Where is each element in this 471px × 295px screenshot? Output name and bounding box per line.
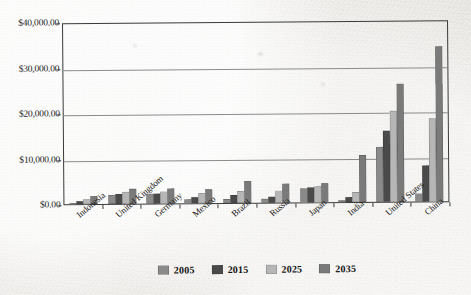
bar-group [337,22,366,202]
y-axis-label: $10,000.00 [4,154,60,164]
bar[interactable] [435,47,443,202]
x-axis-tick [295,204,296,208]
bar[interactable] [338,200,345,202]
bar-group [183,23,212,203]
bar-group [414,21,443,201]
bar-group [68,24,97,204]
legend-label: 2035 [335,263,356,274]
plot-area [62,20,449,205]
legend-item[interactable]: 2025 [265,263,302,274]
bar[interactable] [397,83,405,201]
x-axis-tick [141,205,142,209]
legend-label: 2025 [281,263,302,274]
x-axis-tick [102,205,103,209]
bar[interactable] [185,199,192,203]
x-axis: IndonesiaUnited KingdomGermanyMexicoBraz… [63,202,449,265]
legend-swatch [265,265,276,274]
x-axis-tick [218,204,219,208]
legend-item[interactable]: 2035 [319,263,356,274]
bar-group [107,24,136,204]
bar[interactable] [70,203,77,204]
legend-label: 2015 [228,264,249,275]
y-axis-tick [57,160,61,161]
legend-item[interactable]: 2005 [158,264,195,275]
bar-group [222,23,251,203]
bar[interactable] [359,155,366,202]
bar[interactable] [262,199,269,203]
y-axis-label: $0.00 [4,199,60,209]
bar[interactable] [269,196,276,202]
x-axis-tick [179,204,180,208]
chart-sheet: $40,000.00$30,000.00$20,000.00$10,000.00… [0,0,471,295]
x-axis-tick [411,203,412,207]
bar-groups [63,21,448,204]
y-axis-label: $30,000.00 [3,63,59,73]
legend-item[interactable]: 2015 [212,264,249,275]
x-axis-tick [372,203,373,207]
bar-group [375,22,404,202]
y-axis-tick [57,114,61,115]
bar[interactable] [345,197,352,203]
chart-legend: 2005201520252035 [64,262,450,276]
legend-swatch [158,266,169,275]
bar[interactable] [230,195,237,203]
y-axis-tick [56,23,60,24]
legend-swatch [212,265,223,274]
y-axis-tick [57,205,61,206]
y-axis-label: $40,000.00 [3,17,59,27]
bar[interactable] [115,194,122,204]
bar[interactable] [192,197,199,203]
legend-label: 2005 [174,264,195,275]
y-axis: $40,000.00$30,000.00$20,000.00$10,000.00… [0,23,60,205]
bar[interactable] [108,195,115,204]
y-axis-tick [56,69,60,70]
bar[interactable] [223,199,230,203]
y-axis-label: $20,000.00 [4,108,60,118]
bar-group [299,22,328,202]
x-axis-tick [449,202,450,206]
x-axis-tick [256,204,257,208]
legend-swatch [319,264,330,273]
x-axis-tick [334,203,335,207]
bar-group [260,23,289,203]
